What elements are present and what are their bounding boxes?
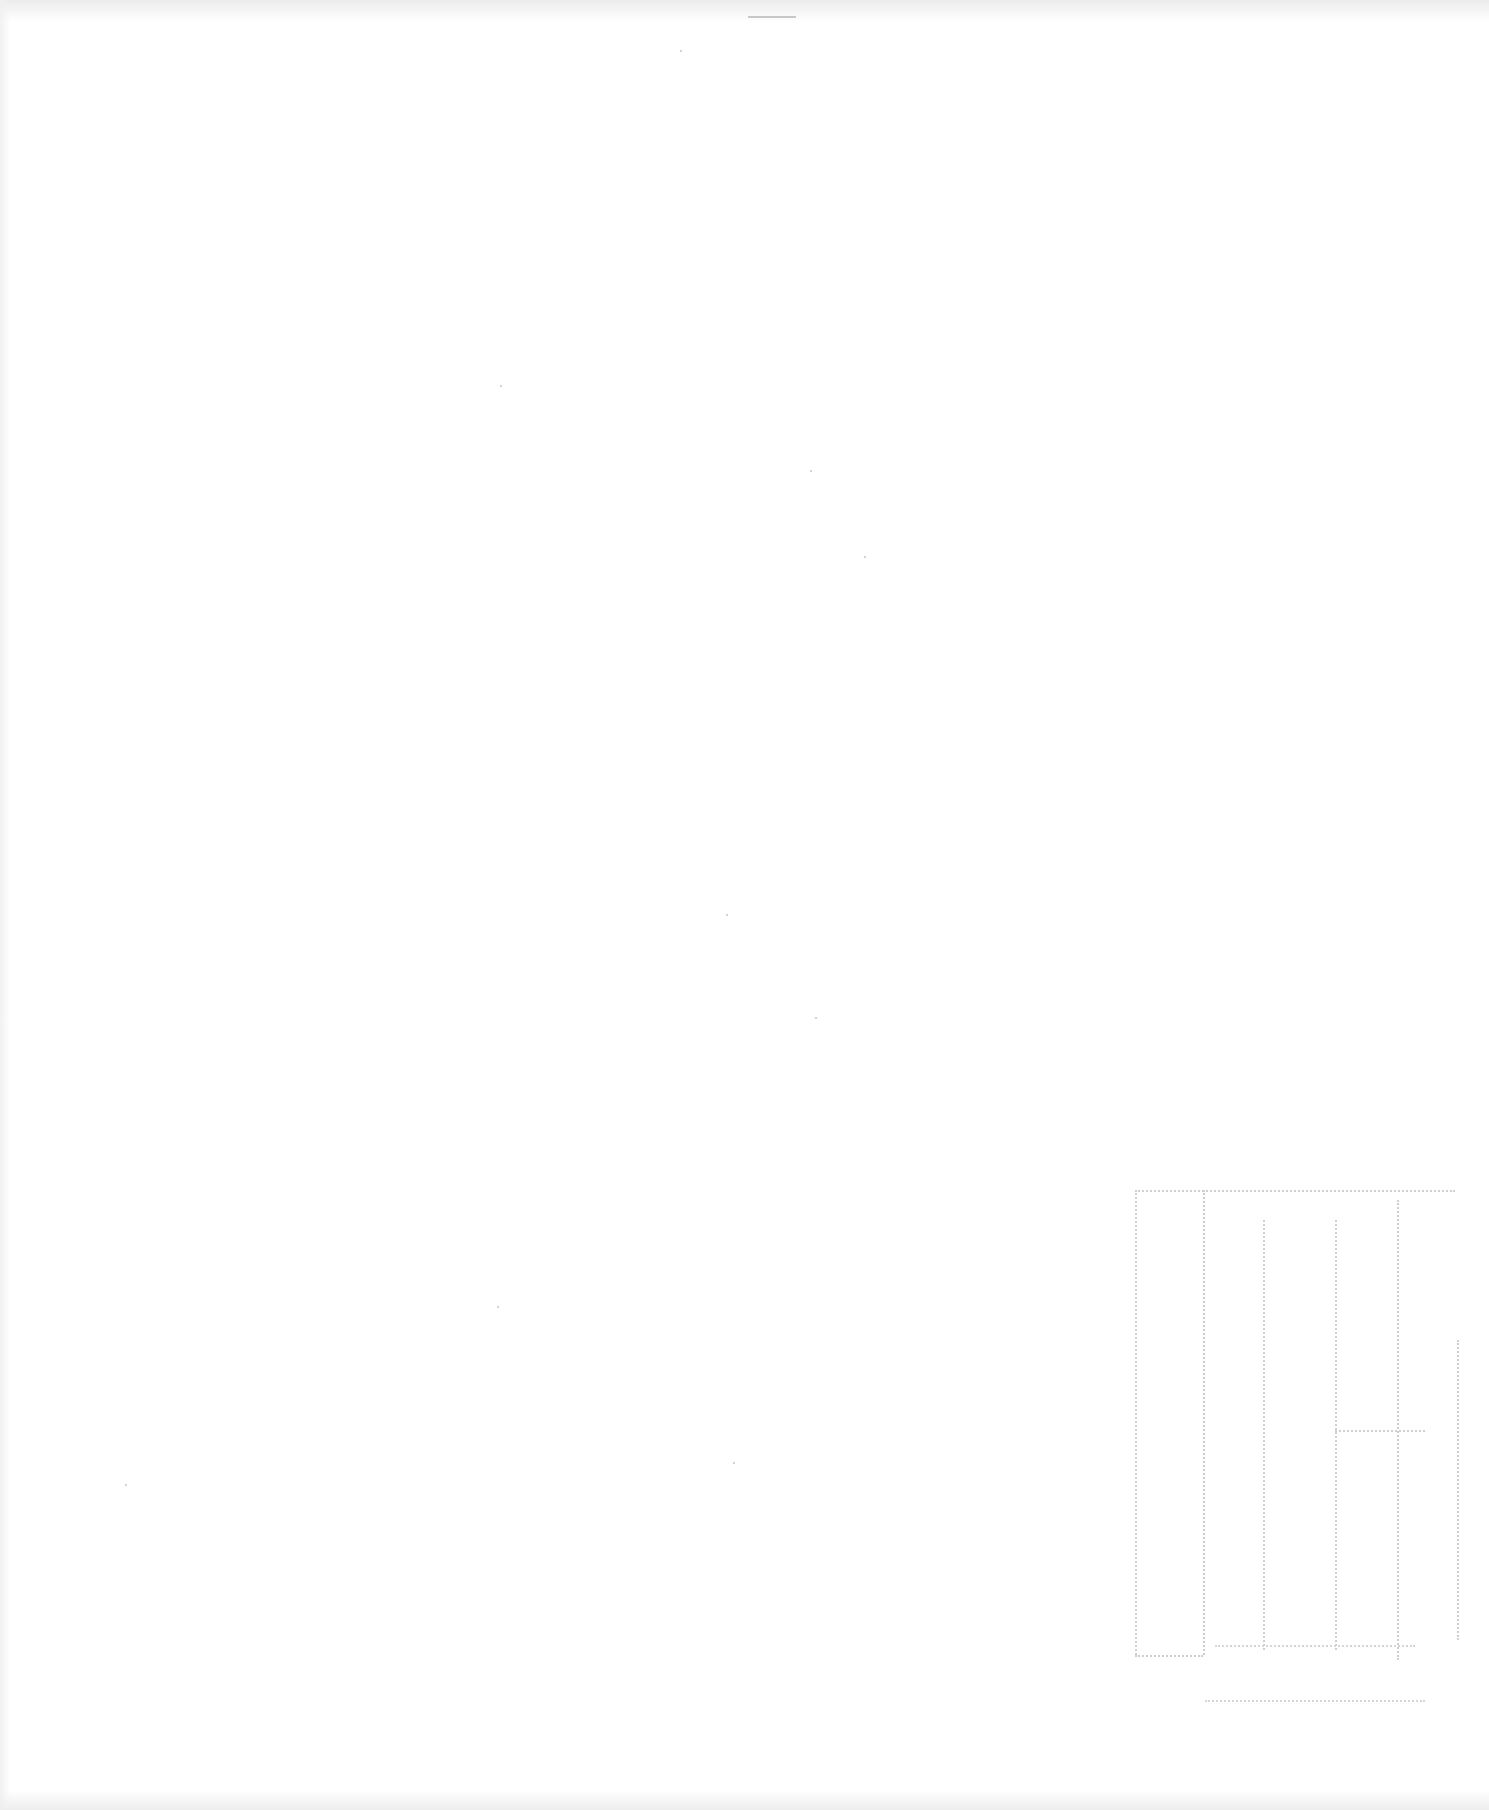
scan-speck xyxy=(864,556,866,558)
outline-divider-3 xyxy=(1335,1220,1337,1650)
outline-divider-2 xyxy=(1263,1220,1265,1650)
scan-speck xyxy=(726,914,728,916)
scan-speck xyxy=(810,470,812,472)
scan-edge-left xyxy=(0,0,10,1810)
outline-bottom-left xyxy=(1135,1655,1203,1657)
scan-speck xyxy=(815,1017,817,1019)
outline-mid-rule xyxy=(1335,1430,1425,1432)
outline-far-right xyxy=(1457,1340,1459,1640)
bleed-line xyxy=(1215,1645,1415,1649)
bleed-through-form-outline xyxy=(1135,1190,1460,1680)
scan-mark xyxy=(748,16,796,18)
scan-speck xyxy=(500,385,502,387)
outline-left xyxy=(1135,1190,1137,1655)
scan-edge-bottom xyxy=(0,1790,1489,1810)
bleed-line xyxy=(1205,1700,1425,1704)
outline-divider-1 xyxy=(1203,1190,1205,1655)
scan-edge-top xyxy=(0,0,1489,22)
scan-speck xyxy=(125,1484,127,1486)
outline-top xyxy=(1135,1190,1455,1192)
scan-speck xyxy=(733,1462,735,1464)
scan-speck xyxy=(497,1306,499,1308)
scan-speck xyxy=(680,50,682,52)
